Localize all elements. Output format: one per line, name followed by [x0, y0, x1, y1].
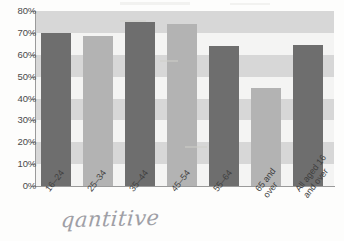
bars-layer — [36, 11, 334, 186]
y-axis-label-20: 20% — [2, 136, 36, 147]
y-axis-label-80: 80% — [2, 5, 36, 16]
y-axis-label-10: 10% — [2, 158, 36, 169]
scan-artifact — [120, 2, 190, 5]
bar-25-34 — [83, 36, 113, 186]
y-axis-label-0: 0% — [2, 180, 36, 191]
x-axis-line — [35, 186, 335, 187]
bar-chart: 80% 70% 60% 50% 40% 30% 20% 10% 0% 16–24… — [0, 0, 344, 241]
y-axis-label-60: 60% — [2, 49, 36, 60]
handwritten-annotation: qantitive — [60, 206, 160, 233]
bar-35-44 — [125, 22, 155, 186]
y-axis-label-70: 70% — [2, 27, 36, 38]
bar-16-24 — [41, 33, 71, 186]
y-axis-label-40: 40% — [2, 93, 36, 104]
y-axis-label-50: 50% — [2, 71, 36, 82]
scan-artifact — [230, 3, 270, 5]
bar-55-64 — [209, 46, 239, 186]
y-axis-label-30: 30% — [2, 114, 36, 125]
bar-45-54 — [167, 24, 197, 186]
